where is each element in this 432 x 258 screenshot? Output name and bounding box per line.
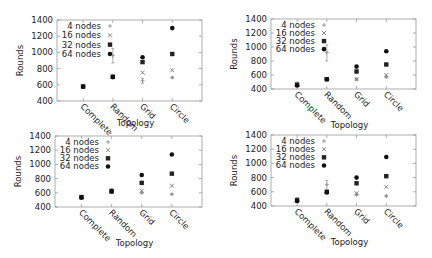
- chart-3: 400600800100012001400RoundsCompleteRando…: [13, 131, 202, 248]
- square-marker-icon: [322, 155, 326, 159]
- square-marker-icon: [106, 156, 110, 160]
- square-marker-icon: [170, 52, 174, 56]
- y-tick-label: 600: [251, 187, 267, 197]
- square-marker-icon: [322, 39, 326, 43]
- x-tick-label: Circle: [382, 89, 406, 113]
- circle-marker-icon: [139, 173, 144, 178]
- y-tick-label: 400: [37, 96, 53, 106]
- y-axis-label: Rounds: [15, 44, 25, 76]
- legend-label: 64 nodes: [276, 44, 316, 54]
- x-tick-label: Grid: [352, 89, 372, 109]
- circle-marker-icon: [354, 175, 359, 180]
- circle-marker-icon: [140, 55, 145, 60]
- y-tick-label: 1000: [29, 159, 51, 169]
- x-tick-label: Circle: [168, 101, 192, 125]
- y-tick-label: 1200: [245, 28, 267, 38]
- y-tick-label: 400: [35, 202, 51, 212]
- y-tick-label: 800: [37, 64, 53, 74]
- circle-marker-icon: [106, 164, 111, 169]
- circle-marker-icon: [295, 83, 300, 88]
- y-tick-label: 1200: [31, 31, 53, 41]
- x-axis-label: Topology: [116, 118, 155, 128]
- y-tick-label: 400: [251, 201, 267, 211]
- y-tick-label: 1400: [29, 131, 51, 141]
- circle-marker-icon: [79, 195, 84, 200]
- y-tick-label: 1200: [245, 144, 267, 154]
- y-tick-label: 1000: [31, 47, 53, 57]
- y-tick-label: 800: [35, 174, 51, 184]
- square-marker-icon: [384, 62, 388, 66]
- chart-1: 400600800100012001400RoundsCompleteRando…: [15, 15, 202, 137]
- circle-marker-icon: [325, 77, 330, 82]
- y-tick-label: 1400: [245, 130, 267, 140]
- x-tick-label: Grid: [352, 206, 372, 226]
- legend-label: 64 nodes: [62, 49, 102, 59]
- circle-marker-icon: [384, 155, 389, 160]
- circle-marker-icon: [354, 64, 359, 69]
- legend-label: 64 nodes: [276, 160, 316, 170]
- circle-marker-icon: [170, 152, 175, 157]
- y-axis-label: Rounds: [229, 154, 239, 186]
- y-tick-label: 1400: [245, 14, 267, 24]
- circle-marker-icon: [109, 189, 114, 194]
- chart-4: 400600800100012001400RoundsCompleteRando…: [229, 130, 416, 247]
- y-tick-label: 600: [35, 188, 51, 198]
- circle-marker-icon: [325, 190, 330, 195]
- y-tick-label: 600: [37, 80, 53, 90]
- y-tick-label: 1000: [245, 158, 267, 168]
- circle-marker-icon: [295, 199, 300, 204]
- charts-svg: 400600800100012001400RoundsCompleteRando…: [0, 0, 432, 258]
- x-tick-label: Circle: [382, 206, 406, 230]
- x-tick-label: Grid: [137, 207, 157, 227]
- square-marker-icon: [354, 69, 358, 73]
- y-tick-label: 400: [251, 84, 267, 94]
- y-tick-label: 800: [251, 56, 267, 66]
- y-tick-label: 1400: [31, 15, 53, 25]
- circle-marker-icon: [170, 26, 175, 31]
- x-tick-label: Circle: [167, 207, 191, 231]
- x-axis-label: Topology: [330, 120, 369, 130]
- y-tick-label: 600: [251, 70, 267, 80]
- y-axis-label: Rounds: [229, 38, 239, 70]
- square-marker-icon: [140, 181, 144, 185]
- square-marker-icon: [354, 181, 358, 185]
- square-marker-icon: [170, 171, 174, 175]
- circle-marker-icon: [322, 163, 327, 168]
- x-axis-label: Topology: [330, 237, 369, 247]
- square-marker-icon: [108, 42, 112, 46]
- y-axis-label: Rounds: [13, 155, 23, 187]
- circle-marker-icon: [384, 49, 389, 54]
- chart-2: 400600800100012001400RoundsCompleteRando…: [229, 14, 416, 130]
- square-marker-icon: [140, 60, 144, 64]
- circle-marker-icon: [81, 85, 86, 90]
- circle-marker-icon: [111, 75, 116, 80]
- x-axis-label: Topology: [115, 238, 154, 248]
- circle-marker-icon: [322, 47, 327, 52]
- y-tick-label: 1000: [245, 42, 267, 52]
- legend-label: 64 nodes: [60, 161, 100, 171]
- y-tick-label: 800: [251, 173, 267, 183]
- square-marker-icon: [384, 174, 388, 178]
- y-tick-label: 1200: [29, 145, 51, 155]
